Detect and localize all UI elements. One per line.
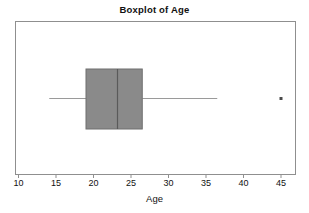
x-tick-label-2: 20: [82, 178, 106, 188]
x-tick-label-7: 45: [269, 178, 293, 188]
x-tick-label-5: 35: [194, 178, 218, 188]
boxplot-figure: Boxplot of Age 10 15 20 25 30 35 40 4: [0, 0, 309, 213]
chart-title: Boxplot of Age: [0, 4, 309, 15]
x-tick-label-6: 40: [232, 178, 256, 188]
x-tick-label-0: 10: [7, 178, 31, 188]
x-axis-title: Age: [0, 193, 309, 204]
x-tick-label-4: 30: [157, 178, 181, 188]
plot-area-frame: [15, 21, 296, 175]
x-tick-label-1: 15: [44, 178, 68, 188]
x-tick-label-3: 25: [119, 178, 143, 188]
